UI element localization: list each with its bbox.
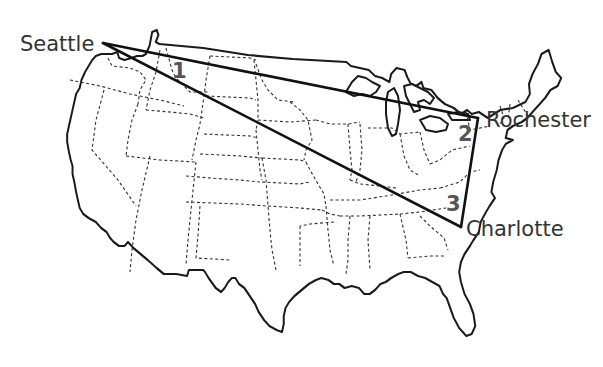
route xyxy=(103,43,478,227)
us-outline xyxy=(67,30,561,336)
city-label-seattle: Seattle xyxy=(20,34,94,55)
leg-label-3: 3 xyxy=(446,194,461,215)
route-leg-3 xyxy=(103,43,461,227)
city-label-charlotte: Charlotte xyxy=(466,219,564,240)
leg-label-1: 1 xyxy=(172,61,187,82)
route-leg-1 xyxy=(103,43,478,118)
leg-label-2: 2 xyxy=(458,124,473,145)
city-label-rochester: Rochester xyxy=(486,110,591,131)
